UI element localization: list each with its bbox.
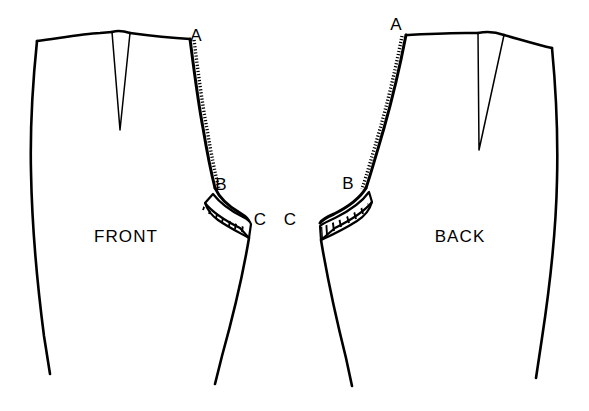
front-inseam [215, 238, 249, 384]
labels-group: A B C C B A FRONT BACK [94, 15, 485, 246]
pattern-drawing-canvas: A B C C B A FRONT BACK [0, 0, 589, 411]
back-seam-stipple-texture [362, 36, 402, 189]
front-waist-line-center [112, 31, 130, 33]
piece-label-back: BACK [435, 227, 486, 246]
back-crotch-seam-a-b [366, 35, 406, 188]
front-waist-line-left [37, 32, 112, 41]
back-piece-outline [536, 48, 557, 378]
back-inseam [321, 240, 352, 386]
front-dart [112, 32, 130, 130]
front-piece-outline [31, 41, 50, 374]
front-waist-line-right [130, 33, 190, 39]
point-label-back-b: B [342, 174, 354, 193]
front-crotch-seam-a-b [190, 39, 215, 188]
point-label-front-a: A [190, 26, 202, 45]
point-label-front-c: C [254, 210, 267, 229]
pattern-diagram: A B C C B A FRONT BACK [0, 0, 589, 411]
point-label-back-c: C [284, 210, 297, 229]
back-waist-line-right [504, 35, 552, 48]
back-dart [478, 33, 504, 150]
front-piece-group [31, 31, 251, 384]
back-piece-group [320, 32, 557, 386]
back-waist-line-left [406, 33, 478, 35]
back-waist-line-center [478, 32, 504, 35]
front-seam-stipple-texture [194, 40, 219, 189]
piece-label-front: FRONT [94, 227, 158, 246]
point-label-back-a: A [390, 15, 402, 34]
point-label-front-b: B [215, 175, 227, 194]
